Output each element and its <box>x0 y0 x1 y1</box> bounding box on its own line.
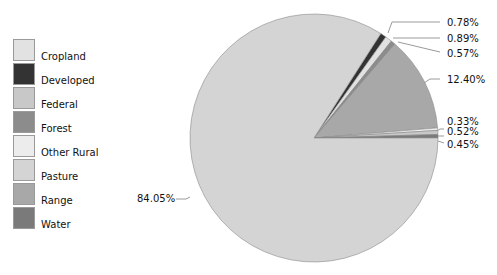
slice-label-forest: 0.57% <box>447 48 479 59</box>
slice-label-developed: 0.78% <box>447 17 479 28</box>
slice-label-federal: 0.52% <box>447 126 479 137</box>
slice-label-range: 12.40% <box>447 74 485 85</box>
slice-label-water: 0.45% <box>447 139 479 150</box>
slice-label-cropland: 0.89% <box>447 33 479 44</box>
pie-chart: 0.78% 0.89% 0.57% 12.40% 0.33% 0.52% 0.4… <box>0 0 497 275</box>
slice-label-pasture: 84.05% <box>137 193 175 204</box>
pie-slices <box>190 14 438 262</box>
